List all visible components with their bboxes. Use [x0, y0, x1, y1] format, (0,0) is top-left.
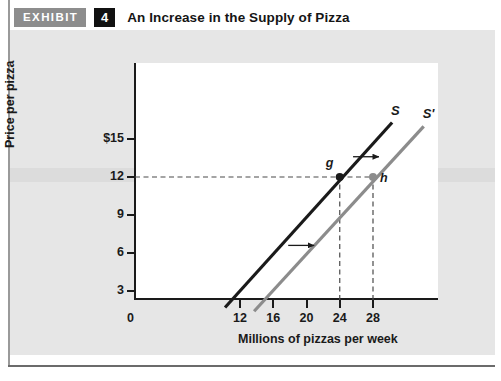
plot-drawing-layer — [10, 30, 495, 355]
supply-curve-S-prime — [254, 126, 424, 311]
supply-curve-S — [225, 123, 392, 308]
supply-curves — [225, 123, 424, 312]
equilibrium-point-g — [336, 173, 344, 181]
curve-label-S: S — [391, 103, 400, 118]
equilibrium-point-h — [369, 173, 377, 181]
exhibit-page: EXHIBIT 4 An Increase in the Supply of P… — [0, 0, 501, 381]
page-bottom-rule — [8, 365, 495, 367]
exhibit-header: EXHIBIT 4 An Increase in the Supply of P… — [14, 7, 350, 27]
exhibit-tag: EXHIBIT — [14, 8, 86, 27]
supply-chart: Price per pizza Millions of pizzas per w… — [10, 30, 495, 355]
exhibit-title: An Increase in the Supply of Pizza — [127, 10, 349, 25]
shift-arrows — [288, 157, 379, 246]
point-label-h: h — [380, 171, 388, 185]
exhibit-number-badge: 4 — [94, 8, 115, 27]
figure-panel: Price per pizza Millions of pizzas per w… — [10, 30, 495, 355]
point-label-g: g — [326, 156, 334, 170]
curve-label-S-prime: S' — [423, 106, 435, 121]
dashed-guide-lines — [135, 177, 373, 300]
